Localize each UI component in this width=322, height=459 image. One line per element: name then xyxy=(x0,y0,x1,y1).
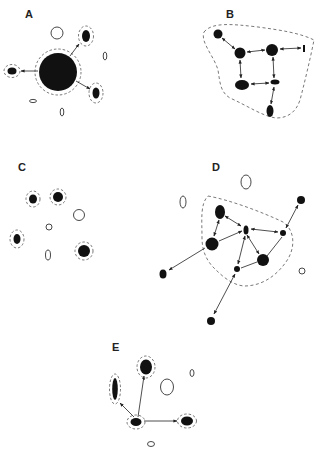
active-node xyxy=(280,230,286,236)
active-node xyxy=(14,234,21,244)
hub-node xyxy=(39,53,77,91)
active-node xyxy=(207,317,215,325)
bidirectional-edge-arrow xyxy=(251,83,269,84)
panel-b: B xyxy=(203,8,314,118)
bidirectional-edge-arrow xyxy=(286,205,298,228)
bidirectional-edge-arrow xyxy=(214,274,235,314)
active-node xyxy=(214,30,223,39)
active-node xyxy=(112,378,118,400)
inactive-node-icon xyxy=(190,370,194,377)
inactive-node-icon xyxy=(241,175,251,189)
inactive-node-icon xyxy=(148,442,155,447)
active-node xyxy=(181,417,193,426)
panel-e: E xyxy=(110,341,197,447)
inactive-node-icon xyxy=(51,27,63,39)
inactive-node-icon xyxy=(299,268,305,274)
active-node xyxy=(297,196,305,204)
bidirectional-edge-arrow xyxy=(240,60,241,78)
active-node xyxy=(303,45,305,52)
bidirectional-edge-arrow xyxy=(214,220,219,236)
panel-d-label: D xyxy=(212,161,220,173)
panel-a: A xyxy=(4,8,107,116)
bidirectional-edge-arrow xyxy=(247,235,259,254)
bidirectional-edge-arrow xyxy=(238,236,245,264)
active-node xyxy=(93,88,100,99)
inactive-node-icon xyxy=(46,250,51,260)
inactive-node-icon xyxy=(180,196,186,208)
bidirectional-edge-arrow xyxy=(247,50,265,52)
active-node xyxy=(140,360,152,375)
panel-e-label: E xyxy=(112,341,119,353)
inactive-node-icon xyxy=(161,379,174,395)
directed-edge-arrow xyxy=(76,81,90,89)
active-node xyxy=(271,80,280,85)
inactive-node-icon xyxy=(46,224,52,230)
active-node xyxy=(131,418,142,426)
directed-edge-arrow xyxy=(138,376,144,417)
bidirectional-edge-arrow xyxy=(273,57,274,78)
undirected-edge xyxy=(241,262,257,268)
bidirectional-edge-arrow xyxy=(271,87,274,104)
active-node xyxy=(234,266,240,272)
panel-c: C xyxy=(10,161,93,260)
directed-edge-arrow xyxy=(120,403,134,417)
directed-edge-arrow xyxy=(70,44,79,56)
active-node xyxy=(235,48,246,59)
active-node xyxy=(8,68,17,75)
bidirectional-edge-arrow xyxy=(222,38,235,49)
active-node xyxy=(53,192,63,202)
active-node xyxy=(235,80,249,90)
inactive-node-icon xyxy=(60,108,64,116)
bidirectional-edge-arrow xyxy=(225,216,241,226)
active-node xyxy=(267,105,274,117)
network-diagram-figure: A B C xyxy=(0,0,322,459)
active-node xyxy=(206,238,219,251)
inactive-node-icon xyxy=(103,52,107,60)
dashed-group-boundary xyxy=(203,25,314,118)
panel-b-label: B xyxy=(226,8,234,20)
inactive-node-icon xyxy=(74,210,85,221)
directed-edge-arrow xyxy=(219,231,242,241)
active-node xyxy=(82,30,90,42)
active-node xyxy=(244,226,249,235)
active-node xyxy=(29,195,37,204)
directed-edge-arrow xyxy=(169,248,205,270)
bidirectional-edge-arrow xyxy=(251,229,278,232)
active-node xyxy=(78,245,90,257)
inactive-node-icon xyxy=(30,99,37,102)
panel-c-label: C xyxy=(18,161,26,173)
active-node xyxy=(160,270,167,279)
active-node xyxy=(215,205,225,219)
active-node xyxy=(257,254,269,266)
panel-a-label: A xyxy=(25,8,33,20)
active-node xyxy=(266,44,278,56)
bidirectional-edge-arrow xyxy=(280,48,301,49)
undirected-edge xyxy=(267,237,282,256)
panel-d: D xyxy=(160,161,306,325)
